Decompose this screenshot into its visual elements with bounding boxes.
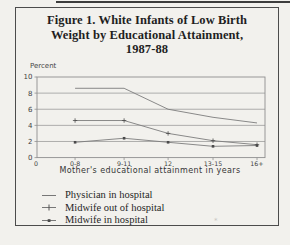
- legend-label-physician: Physician in hospital: [65, 189, 153, 201]
- plus-marker-line-icon: [41, 203, 59, 212]
- marker-square: [74, 141, 77, 144]
- y-tick-label-2: 2: [28, 138, 32, 146]
- legend-label-midwife-in: Midwife in hospital: [65, 214, 148, 226]
- square-marker-line-icon: [41, 216, 59, 225]
- legend-item-midwife-in: Midwife in hospital: [41, 214, 164, 227]
- plain-line-icon: [41, 191, 59, 200]
- marker-square: [123, 137, 126, 140]
- series-line-0: [75, 88, 257, 123]
- series-line-1: [75, 121, 257, 145]
- legend-label-midwife-out: Midwife out of hospital: [65, 202, 164, 214]
- x-axis-title: Mother's educational attainment in years: [15, 166, 285, 175]
- y-tick-label-0: 0: [28, 154, 32, 162]
- marker-square: [256, 144, 259, 147]
- y-tick-label-8: 8: [28, 90, 32, 98]
- chart-legend: Physician in hospital Midwife out of hos…: [41, 189, 164, 227]
- legend-item-physician: Physician in hospital: [41, 189, 164, 202]
- marker-square: [212, 145, 215, 148]
- print-artifact: *: [214, 217, 218, 225]
- y-tick-label-4: 4: [28, 122, 33, 130]
- plot-border: [37, 77, 265, 158]
- legend-item-midwife-out: Midwife out of hospital: [41, 202, 164, 215]
- y-tick-label-10: 10: [24, 73, 33, 81]
- marker-square: [167, 141, 170, 144]
- scanned-figure-page: Figure 1. White Infants of Low Birth Wei…: [0, 0, 290, 245]
- y-tick-label-6: 6: [28, 106, 33, 114]
